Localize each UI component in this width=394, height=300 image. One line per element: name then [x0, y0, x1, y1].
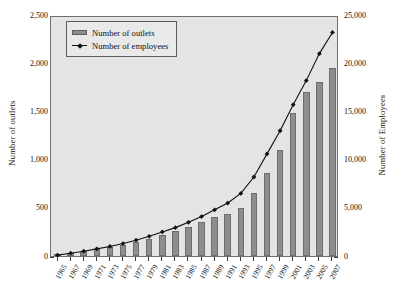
line-marker	[186, 220, 191, 225]
line-marker	[134, 238, 139, 243]
y-axis-left-tick-label: 1,000	[0, 155, 48, 164]
y-axis-left-title: Number of outlets	[7, 73, 17, 193]
legend-label-outlets: Number of outlets	[92, 28, 155, 38]
line-marker	[173, 225, 178, 230]
line-marker	[160, 230, 165, 235]
line-marker	[147, 234, 152, 239]
y-axis-left-tick-label: 2,000	[0, 59, 48, 68]
legend-item-employees: Number of employees	[72, 39, 168, 52]
y-axis-right-tick-label: 15,000	[344, 107, 394, 116]
chart-figure: Number of outlets Number of Employees 05…	[0, 0, 394, 300]
y-axis-right-title: Number of Employees	[377, 75, 387, 195]
y-axis-right-tick-label: 10,000	[344, 155, 394, 164]
line-marker	[199, 214, 204, 219]
line-marker-icon	[72, 41, 87, 50]
line-marker	[94, 246, 99, 251]
y-axis-right-tick-label: 0	[344, 252, 394, 261]
y-axis-left-tick-label: 2,500	[0, 11, 48, 20]
legend-label-employees: Number of employees	[92, 41, 168, 51]
y-axis-right-tick-label: 20,000	[344, 59, 394, 68]
y-axis-right-tick-label: 25,000	[344, 11, 394, 20]
line-marker	[81, 249, 86, 254]
line-marker	[121, 241, 126, 246]
y-axis-right-tick-label: 5,000	[344, 203, 394, 212]
y-axis-left-tick-label: 0	[0, 252, 48, 261]
line-marker	[291, 102, 296, 107]
chart-legend: Number of outlets Number of employees	[66, 21, 177, 57]
line-marker	[55, 253, 60, 258]
line-marker	[212, 207, 217, 212]
y-axis-left-tick-label: 1,500	[0, 107, 48, 116]
line-marker	[265, 151, 270, 156]
legend-item-outlets: Number of outlets	[72, 26, 168, 39]
bar-swatch-icon	[72, 30, 87, 35]
line-marker	[108, 244, 113, 249]
line-marker	[68, 251, 73, 256]
y-axis-left-tick-label: 500	[0, 203, 48, 212]
line-marker	[304, 78, 309, 83]
line-marker	[278, 128, 283, 133]
